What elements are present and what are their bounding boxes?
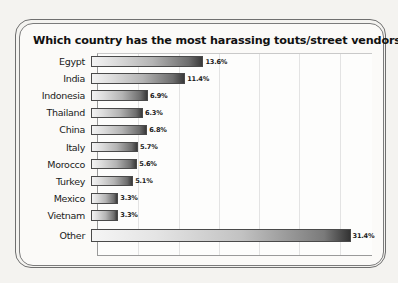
bar: 5.6% [91, 159, 137, 170]
bar-value-label: 5.6% [139, 160, 157, 168]
category-label: Indonesia [29, 90, 91, 101]
bar-track: 11.4% [91, 70, 372, 87]
plot-area: Egypt13.6%India11.4%Indonesia6.9%Thailan… [29, 53, 372, 256]
bar-row: Indonesia6.9% [29, 87, 372, 104]
chart-card: Which country has the most harassing tou… [19, 23, 384, 266]
category-label: Mexico [29, 193, 91, 204]
bar-value-label: 11.4% [187, 75, 209, 83]
bar-value-label: 3.3% [120, 211, 138, 219]
bar: 11.4% [91, 73, 185, 84]
bar-row: India11.4% [29, 70, 372, 87]
bar-row: China6.8% [29, 121, 372, 138]
bar: 6.9% [91, 90, 148, 101]
bar-track: 6.3% [91, 104, 372, 121]
bar-track: 6.8% [91, 121, 372, 138]
bar-value-label: 6.3% [145, 109, 163, 117]
bar-row: Vietnam3.3% [29, 207, 372, 224]
category-label: India [29, 73, 91, 84]
bar: 5.1% [91, 176, 133, 187]
bar-row: Mexico3.3% [29, 190, 372, 207]
category-label: Turkey [29, 176, 91, 187]
bar-row: Other31.4% [29, 224, 372, 248]
bar-row: Egypt13.6% [29, 53, 372, 70]
bar-track: 5.6% [91, 156, 372, 173]
category-label: Egypt [29, 56, 91, 67]
bar-track: 6.9% [91, 87, 372, 104]
bar-row: Italy5.7% [29, 138, 372, 155]
bar-value-label: 5.1% [135, 177, 153, 185]
bar: 31.4% [91, 229, 351, 242]
category-label: China [29, 124, 91, 135]
bar-row: Thailand6.3% [29, 104, 372, 121]
category-label: Morocco [29, 159, 91, 170]
bar-track: 13.6% [91, 53, 372, 70]
bar-track: 3.3% [91, 207, 372, 224]
bar-value-label: 5.7% [140, 143, 158, 151]
category-label: Thailand [29, 107, 91, 118]
bar-value-label: 13.6% [205, 58, 227, 66]
bar-rows: Egypt13.6%India11.4%Indonesia6.9%Thailan… [29, 53, 372, 256]
bar-row: Morocco5.6% [29, 156, 372, 173]
chart-page: Which country has the most harassing tou… [0, 0, 398, 283]
bar: 3.3% [91, 210, 118, 221]
bar-track: 31.4% [91, 224, 372, 248]
chart-title: Which country has the most harassing tou… [33, 34, 372, 47]
category-label: Italy [29, 142, 91, 153]
bar: 6.8% [91, 125, 147, 136]
bar-value-label: 6.8% [149, 126, 167, 134]
bar-value-label: 6.9% [150, 92, 168, 100]
bar-row: Turkey5.1% [29, 173, 372, 190]
bar: 6.3% [91, 108, 143, 119]
bar: 3.3% [91, 193, 118, 204]
bar-track: 5.1% [91, 173, 372, 190]
bar-track: 5.7% [91, 138, 372, 155]
category-label: Vietnam [29, 210, 91, 221]
bar-value-label: 31.4% [353, 232, 375, 240]
bar: 13.6% [91, 56, 203, 67]
bar-value-label: 3.3% [120, 194, 138, 202]
category-label: Other [29, 230, 91, 241]
bar: 5.7% [91, 142, 138, 153]
bar-track: 3.3% [91, 190, 372, 207]
